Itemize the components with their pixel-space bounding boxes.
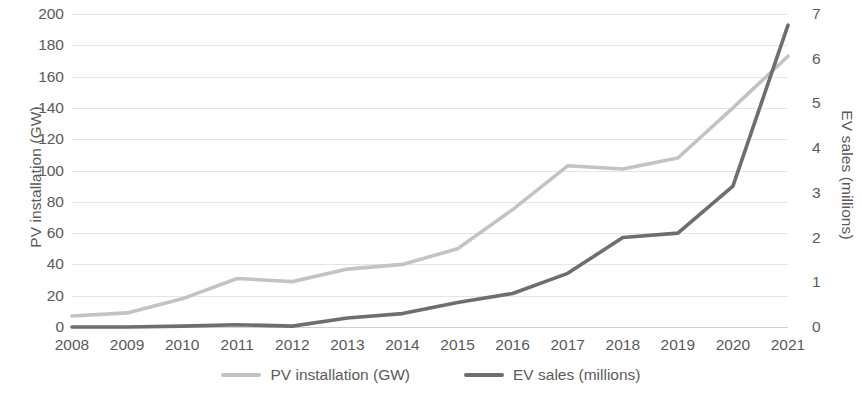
x-axis-tick-label: 2012 bbox=[262, 337, 322, 353]
y-axis-right-tick-label: 1 bbox=[812, 274, 852, 290]
y-axis-left-tick-label: 100 bbox=[4, 163, 64, 179]
series-line-pv-installation bbox=[72, 56, 788, 316]
series-group bbox=[72, 25, 788, 327]
x-axis-tick-label: 2011 bbox=[207, 337, 267, 353]
y-axis-left-tick-label: 200 bbox=[4, 6, 64, 22]
y-axis-right-tick-label: 6 bbox=[812, 51, 852, 67]
x-axis-tick-label: 2008 bbox=[42, 337, 102, 353]
y-axis-left-tick-label: 60 bbox=[4, 225, 64, 241]
y-axis-left-tick-label: 180 bbox=[4, 37, 64, 53]
legend-swatch-ev-sales bbox=[464, 373, 504, 377]
y-axis-right-tick-label: 2 bbox=[812, 230, 852, 246]
legend-label-pv-installation: PV installation (GW) bbox=[270, 366, 410, 384]
y-axis-left-tick-label: 160 bbox=[4, 69, 64, 85]
y-axis-left-tick-label: 120 bbox=[4, 131, 64, 147]
series-line-ev-sales bbox=[72, 25, 788, 327]
x-axis-tick-label: 2020 bbox=[703, 337, 763, 353]
chart-legend: PV installation (GW) EV sales (millions) bbox=[0, 366, 862, 384]
x-axis-tick-label: 2016 bbox=[483, 337, 543, 353]
y-axis-right-title: EV sales (millions) bbox=[838, 55, 856, 295]
y-axis-right-tick-label: 5 bbox=[812, 95, 852, 111]
x-axis-tick-label: 2019 bbox=[648, 337, 708, 353]
y-axis-left-tick-label: 20 bbox=[4, 288, 64, 304]
chart-svg bbox=[72, 14, 788, 327]
plot-area bbox=[72, 14, 788, 327]
x-axis-tick-label: 2017 bbox=[538, 337, 598, 353]
x-axis-tick-label: 2014 bbox=[372, 337, 432, 353]
x-axis-tick-label: 2021 bbox=[758, 337, 818, 353]
y-axis-right-tick-label: 4 bbox=[812, 140, 852, 156]
y-axis-right-tick-label: 7 bbox=[812, 6, 852, 22]
x-axis-tick-label: 2018 bbox=[593, 337, 653, 353]
y-axis-left-tick-label: 140 bbox=[4, 100, 64, 116]
legend-swatch-pv-installation bbox=[221, 373, 261, 377]
y-axis-right-tick-label: 3 bbox=[812, 185, 852, 201]
legend-label-ev-sales: EV sales (millions) bbox=[513, 366, 640, 384]
legend-item-pv-installation: PV installation (GW) bbox=[221, 366, 410, 384]
y-axis-left-tick-label: 40 bbox=[4, 256, 64, 272]
chart-container: PV installation (GW) EV sales (millions)… bbox=[0, 0, 862, 393]
x-axis-tick-label: 2009 bbox=[97, 337, 157, 353]
x-axis-tick-label: 2015 bbox=[428, 337, 488, 353]
y-axis-left-tick-label: 80 bbox=[4, 194, 64, 210]
y-axis-right-tick-label: 0 bbox=[812, 319, 852, 335]
y-axis-left-tick-label: 0 bbox=[4, 319, 64, 335]
gridlines-group bbox=[72, 15, 788, 328]
x-axis-tick-label: 2010 bbox=[152, 337, 212, 353]
x-axis-tick-label: 2013 bbox=[317, 337, 377, 353]
legend-item-ev-sales: EV sales (millions) bbox=[464, 366, 640, 384]
